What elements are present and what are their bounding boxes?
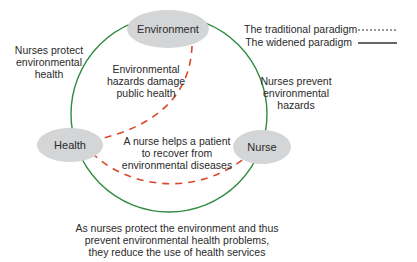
label-line: A nurse helps a patient — [118, 135, 236, 147]
label-nurses-prevent-hazards: Nurses prevent environmental hazards — [260, 75, 332, 111]
label-line: As nurses protect the environment and th… — [72, 222, 282, 234]
label-line: hazards — [260, 99, 332, 111]
legend-traditional-label: The traditional paradigm — [244, 23, 357, 35]
label-line: Environmental — [106, 63, 186, 75]
health-node: Health — [40, 139, 100, 151]
label-line: environmental — [8, 56, 90, 68]
label-line: hazards damage — [106, 75, 186, 87]
label-line: public health — [106, 87, 186, 99]
nurse-node-label: Nurse — [247, 141, 276, 153]
label-line: health — [8, 68, 90, 80]
environment-node-label: Environment — [137, 23, 199, 35]
nurse-node: Nurse — [234, 141, 290, 153]
legend-widened: The widened paradigm — [244, 36, 352, 48]
bottom-note: As nurses protect the environment and th… — [72, 222, 282, 258]
label-line: Nurses prevent — [260, 75, 332, 87]
label-line: environmental diseases — [118, 159, 236, 171]
label-line: environmental — [260, 87, 332, 99]
label-line: Nurses protect — [8, 44, 90, 56]
label-nurses-protect-environmental-health: Nurses protect environmental health — [8, 44, 90, 80]
label-line: they reduce the use of health services — [72, 246, 282, 258]
label-line: prevent environmental health problems, — [72, 234, 282, 246]
label-line: to recover from — [118, 147, 236, 159]
health-node-label: Health — [54, 139, 86, 151]
legend-widened-label: The widened paradigm — [245, 36, 352, 48]
label-environmental-hazards-damage: Environmental hazards damage public heal… — [106, 63, 186, 99]
label-nurse-helps-patient: A nurse helps a patient to recover from … — [118, 135, 236, 171]
environment-node: Environment — [128, 23, 208, 35]
legend-traditional: The traditional paradigm — [244, 23, 355, 35]
